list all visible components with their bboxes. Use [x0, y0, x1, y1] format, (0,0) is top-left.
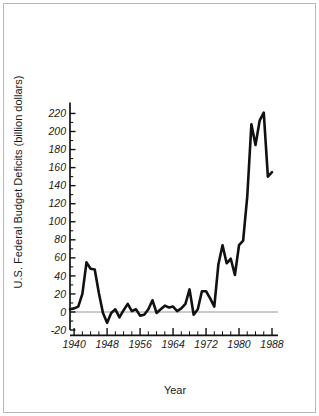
y-tick-label: 20 [53, 288, 66, 300]
x-tick-label: 1940 [62, 338, 86, 350]
x-axis-ticks [74, 328, 272, 336]
y-tick-label: 140 [48, 179, 66, 191]
plot-area: -20020406080100120140160180200220 194019… [47, 103, 283, 351]
y-tick-label: 60 [54, 251, 66, 263]
x-axis-tick-labels: 1940194819561964197219801988 [62, 338, 283, 350]
y-axis-title: U.S. Federal Budget Deficits (billion do… [12, 76, 24, 289]
y-tick-label: 160 [48, 161, 66, 173]
x-tick-label: 1980 [227, 338, 251, 350]
deficit-series-line [70, 113, 272, 323]
x-axis-title: Year [164, 384, 187, 396]
y-tick-label: 100 [48, 215, 66, 227]
x-tick-label: 1988 [260, 338, 284, 350]
x-tick-label: 1948 [95, 338, 119, 350]
y-tick-label: 220 [47, 107, 66, 119]
chart-figure: -20020406080100120140160180200220 194019… [0, 0, 319, 416]
x-tick-label: 1964 [161, 338, 185, 350]
y-tick-label: 180 [48, 143, 66, 155]
y-tick-label: 200 [47, 125, 66, 137]
y-tick-label: 80 [54, 233, 66, 245]
x-tick-label: 1972 [194, 338, 218, 350]
y-tick-label: 40 [54, 270, 66, 282]
y-tick-label: 0 [60, 306, 66, 318]
y-tick-label: 120 [48, 197, 66, 209]
y-axis-tick-labels: -20020406080100120140160180200220 [47, 107, 66, 336]
y-tick-label: -20 [51, 324, 66, 336]
x-tick-label: 1956 [128, 338, 152, 350]
line-chart: -20020406080100120140160180200220 194019… [0, 0, 319, 416]
